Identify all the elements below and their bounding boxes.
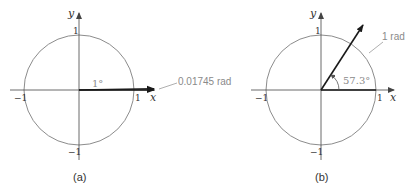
- caption-b: (b): [315, 171, 328, 183]
- panel-a: y x 1 −1 −1 1 1° 0.01745 rad (a): [10, 7, 231, 183]
- y-axis-label-a: y: [67, 7, 75, 20]
- tick-x-pos-b: 1: [377, 93, 383, 103]
- x-axis-label-a: x: [150, 91, 157, 104]
- arc-label-a: 0.01745 rad: [178, 76, 231, 87]
- panel-b: y x 1 −1 −1 1 57.3° 1 rad (b): [251, 7, 405, 183]
- radian-diagram: y x 1 −1 −1 1 1° 0.01745 rad (a) y x 1 −…: [0, 0, 412, 192]
- angle-arc-b: [331, 75, 339, 90]
- tick-y-pos-a: 1: [73, 26, 79, 36]
- tick-x-neg-a: −1: [14, 93, 27, 103]
- y-axis-label-b: y: [309, 7, 317, 20]
- angle-label-a: 1°: [92, 78, 103, 89]
- tick-y-neg-b: −1: [310, 147, 323, 157]
- callout-line-a: [159, 83, 177, 89]
- tick-y-pos-b: 1: [315, 26, 321, 36]
- tick-y-neg-a: −1: [68, 147, 81, 157]
- callout-line-b: [369, 42, 383, 53]
- caption-a: (a): [73, 171, 86, 183]
- tick-x-pos-a: 1: [135, 93, 141, 103]
- tick-x-neg-b: −1: [255, 93, 268, 103]
- x-axis-label-b: x: [390, 91, 397, 104]
- arc-label-b: 1 rad: [382, 31, 405, 42]
- angle-label-b: 57.3°: [343, 75, 370, 86]
